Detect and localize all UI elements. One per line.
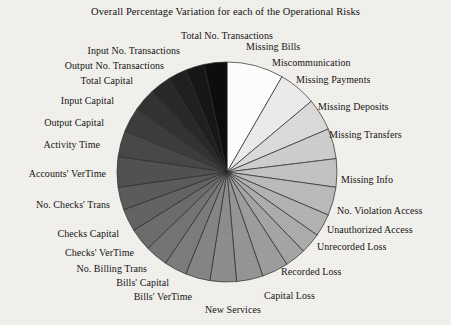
- pie-slice-label: Accounts' VerTime: [29, 168, 106, 179]
- pie-slice-label: Missing Info: [341, 174, 393, 185]
- pie-slice-label: No. Checks' Trans: [36, 199, 110, 210]
- pie-slice-label: New Services: [205, 304, 261, 315]
- pie-slice-label: No. Billing Trans: [76, 263, 147, 274]
- pie-slice-label: Input Capital: [61, 95, 114, 106]
- pie-slice-label: Checks' VerTime: [65, 247, 134, 258]
- pie-slice-label: Output Capital: [44, 117, 104, 128]
- pie-slice-label: Checks Capital: [57, 228, 119, 239]
- pie-slice-label: No. Violation Access: [337, 205, 422, 216]
- pie-slice-label: Total Capital: [81, 75, 133, 86]
- pie-slice-group: Missing Bills — 8.3%Miscommunication — 5…: [117, 62, 337, 282]
- pie-slice-label: Recorded Loss: [281, 266, 341, 277]
- pie-slice-label: Missing Deposits: [318, 101, 389, 112]
- pie-slice-label: Unauthorized Access: [327, 224, 413, 235]
- pie-slice-label: Activity Time: [44, 139, 101, 150]
- pie-slice-label: Input No. Transactions: [88, 45, 181, 56]
- pie-slice-label: Bills' Capital: [116, 277, 169, 288]
- pie-slice-label: Missing Bills: [246, 41, 300, 52]
- pie-slice-label: Missing Payments: [296, 74, 370, 85]
- pie-slice-label: Bills' VerTime: [134, 291, 192, 302]
- pie-chart-graphic: Missing Bills — 8.3%Miscommunication — 5…: [0, 0, 451, 325]
- pie-chart-figure: Overall Percentage Variation for each of…: [0, 0, 451, 325]
- pie-slice-label: Unrecorded Loss: [317, 241, 386, 252]
- pie-slice-label: Miscommunication: [272, 57, 351, 68]
- pie-slice-label: Total No. Transactions: [181, 30, 273, 41]
- pie-slice-label: Missing Transfers: [329, 129, 402, 140]
- pie-slice-label: Capital Loss: [264, 290, 315, 301]
- pie-slice-label: Output No. Transactions: [65, 60, 164, 71]
